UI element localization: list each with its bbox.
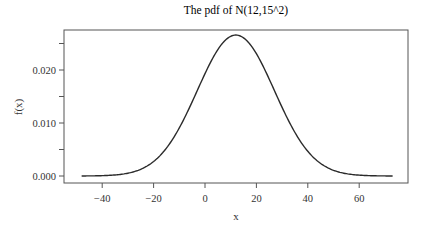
- x-tick-label: 0: [202, 193, 207, 204]
- density-curve: [82, 35, 393, 176]
- x-tick-label: −40: [94, 193, 110, 204]
- x-axis: −40−200204060: [94, 183, 364, 204]
- plot-frame: [64, 30, 408, 183]
- x-tick-label: 20: [251, 193, 262, 204]
- y-tick-label: 0.020: [32, 65, 56, 76]
- y-axis: 0.0000.0100.020: [32, 44, 64, 182]
- chart-title: The pdf of N(12,15^2): [184, 4, 289, 17]
- x-tick-label: −20: [145, 193, 161, 204]
- y-tick-label: 0.000: [32, 171, 56, 182]
- x-tick-label: 60: [354, 193, 365, 204]
- y-axis-label: f(x): [12, 98, 25, 115]
- x-tick-label: 40: [303, 193, 314, 204]
- pdf-chart: The pdf of N(12,15^2) 0.0000.0100.020 −4…: [0, 0, 423, 228]
- y-tick-label: 0.010: [32, 118, 56, 129]
- x-axis-label: x: [233, 210, 239, 222]
